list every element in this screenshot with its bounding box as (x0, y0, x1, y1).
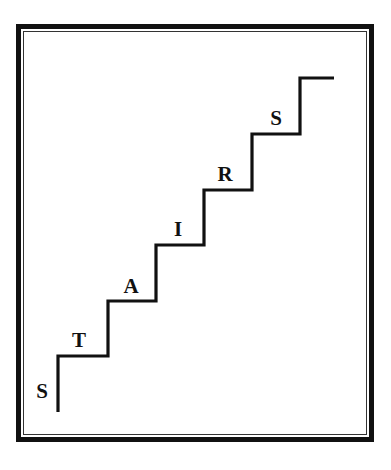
step-letter-r: R (217, 164, 232, 185)
step-letter-a: A (123, 276, 138, 297)
step-letter-s1: S (36, 381, 48, 402)
staircase-diagram (0, 0, 391, 470)
step-letter-t: T (72, 330, 86, 351)
step-letter-s2: S (270, 108, 282, 129)
step-letter-i: I (174, 219, 182, 240)
staircase-line (58, 78, 334, 412)
